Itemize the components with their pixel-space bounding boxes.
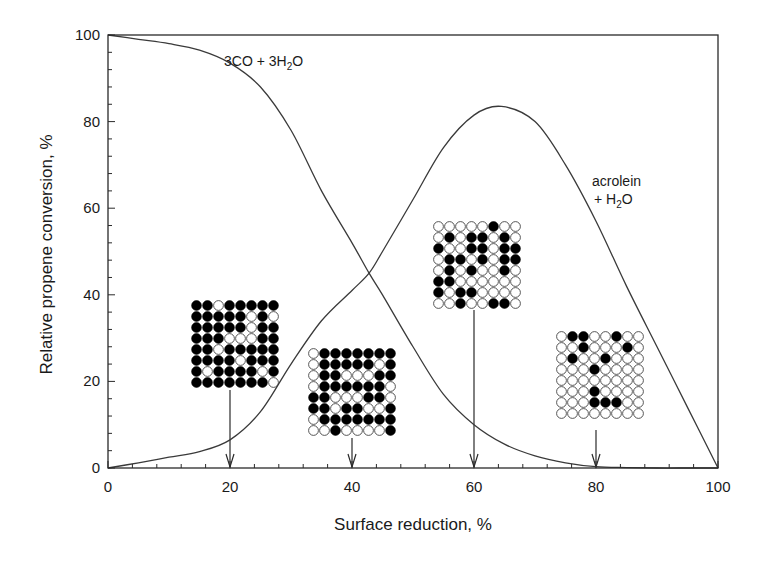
x-tick-label: 0: [104, 478, 112, 495]
atom-filled: [623, 343, 633, 353]
atom-empty: [456, 277, 466, 287]
tick-labels: 020406080100020406080100: [75, 26, 731, 495]
atom-filled: [203, 356, 213, 366]
atom-empty: [568, 409, 578, 419]
atom-empty: [489, 288, 499, 298]
atom-empty: [478, 277, 488, 287]
atom-filled: [478, 244, 488, 254]
atom-empty: [342, 426, 352, 436]
atom-empty: [612, 343, 622, 353]
atom-filled: [225, 323, 235, 333]
atom-filled: [225, 301, 235, 311]
atom-filled: [500, 255, 510, 265]
atom-filled: [331, 415, 341, 425]
atom-filled: [269, 301, 279, 311]
atom-empty: [445, 244, 455, 254]
atom-filled: [456, 288, 466, 298]
atom-filled: [353, 382, 363, 392]
atom-empty: [342, 371, 352, 381]
atom-empty: [568, 343, 578, 353]
atom-filled: [612, 398, 622, 408]
lattice-inset-40: [309, 349, 396, 436]
atom-filled: [375, 393, 385, 403]
atom-empty: [331, 393, 341, 403]
atom-empty: [557, 398, 567, 408]
atom-empty: [489, 244, 499, 254]
atom-empty: [375, 426, 385, 436]
atom-empty: [456, 266, 466, 276]
atom-empty: [467, 255, 477, 265]
atom-empty: [601, 376, 611, 386]
atom-empty: [445, 222, 455, 232]
atom-empty: [364, 404, 374, 414]
atom-filled: [214, 367, 224, 377]
atom-filled: [214, 378, 224, 388]
atom-filled: [500, 244, 510, 254]
atom-empty: [557, 376, 567, 386]
atom-empty: [511, 266, 521, 276]
atom-empty: [331, 404, 341, 414]
atom-empty: [579, 376, 589, 386]
atom-empty: [623, 387, 633, 397]
atom-filled: [331, 371, 341, 381]
atom-filled: [445, 233, 455, 243]
atom-filled: [236, 312, 246, 322]
atom-empty: [601, 409, 611, 419]
atom-empty: [309, 371, 319, 381]
atom-filled: [258, 378, 268, 388]
atom-filled: [386, 404, 396, 414]
atom-filled: [579, 332, 589, 342]
atom-empty: [445, 299, 455, 309]
atom-empty: [489, 233, 499, 243]
atom-empty: [590, 376, 600, 386]
atom-filled: [247, 301, 257, 311]
atom-filled: [269, 323, 279, 333]
atom-empty: [634, 376, 644, 386]
atom-filled: [258, 345, 268, 355]
atom-empty: [568, 376, 578, 386]
lattice-inset-60: [434, 222, 521, 309]
atom-empty: [579, 387, 589, 397]
atom-filled: [192, 301, 202, 311]
atom-empty: [203, 367, 213, 377]
atom-empty: [623, 332, 633, 342]
atom-empty: [353, 393, 363, 403]
atom-filled: [445, 266, 455, 276]
atom-filled: [489, 299, 499, 309]
atom-empty: [342, 393, 352, 403]
atom-empty: [634, 332, 644, 342]
arrow-20: [226, 390, 234, 467]
atom-filled: [342, 360, 352, 370]
atom-empty: [612, 409, 622, 419]
atom-empty: [309, 360, 319, 370]
atom-empty: [247, 334, 257, 344]
atom-filled: [258, 356, 268, 366]
atom-empty: [489, 277, 499, 287]
atom-empty: [511, 222, 521, 232]
atom-empty: [456, 222, 466, 232]
atom-empty: [434, 233, 444, 243]
x-axis-title: Surface reduction, %: [334, 515, 492, 534]
atom-filled: [364, 349, 374, 359]
atom-filled: [568, 354, 578, 364]
atom-filled: [331, 426, 341, 436]
atom-filled: [269, 356, 279, 366]
x-tick-label: 60: [466, 478, 483, 495]
atom-filled: [192, 334, 202, 344]
atom-empty: [214, 345, 224, 355]
atom-filled: [353, 404, 363, 414]
atom-empty: [612, 354, 622, 364]
atom-filled: [590, 398, 600, 408]
atom-filled: [203, 334, 213, 344]
y-tick-label: 60: [83, 199, 100, 216]
curve-label-co-tail: O: [292, 53, 303, 69]
atom-filled: [320, 404, 330, 414]
atom-empty: [225, 334, 235, 344]
atom-filled: [247, 345, 257, 355]
atom-empty: [623, 354, 633, 364]
atom-empty: [590, 343, 600, 353]
atom-filled: [258, 334, 268, 344]
atom-filled: [478, 255, 488, 265]
atom-empty: [557, 409, 567, 419]
atom-empty: [386, 393, 396, 403]
